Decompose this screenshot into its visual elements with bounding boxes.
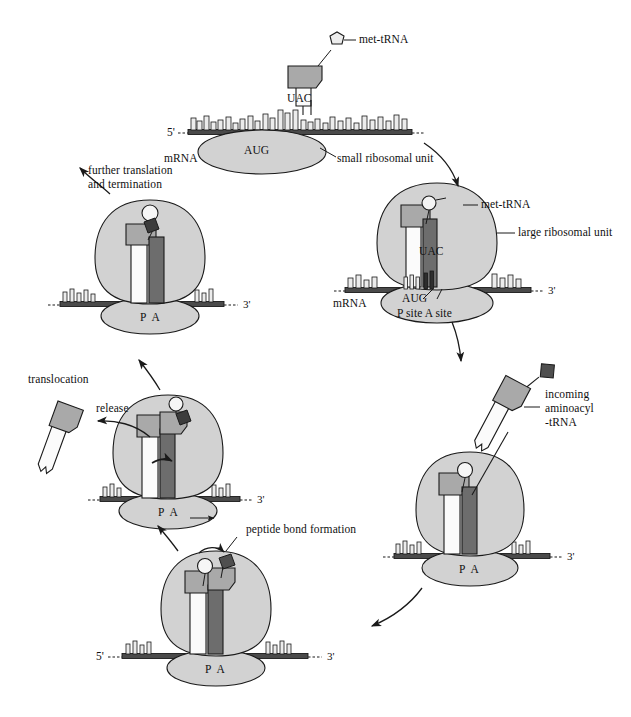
released-trna xyxy=(33,401,83,478)
mrna-bases-1 xyxy=(191,110,407,130)
label-translocation: translocation xyxy=(28,373,89,387)
diagram-canvas xyxy=(0,0,631,717)
label-five-prime-1: 5' xyxy=(167,126,175,140)
label-three-prime-6: 3' xyxy=(243,298,251,312)
label-p-a-sites-4: P A xyxy=(205,663,225,677)
label-met-trna-1: met-tRNA xyxy=(359,33,408,47)
label-large-ribosomal-unit: large ribosomal unit xyxy=(518,226,612,240)
mrna-strand-1 xyxy=(178,110,424,135)
label-mrna-2: mRNA xyxy=(333,297,367,311)
label-anticodon-uac-1: UAC xyxy=(287,92,312,106)
label-three-prime-5: 3' xyxy=(257,493,265,507)
label-three-prime-2: 3' xyxy=(548,284,556,298)
label-met-trna-2: met-tRNA xyxy=(481,198,530,212)
label-p-a-sites-6: P A xyxy=(140,311,160,325)
label-and-termination: and termination xyxy=(88,178,162,192)
label-p-a-sites-2: P site A site xyxy=(397,307,452,321)
label-small-ribosomal-unit: small ribosomal unit xyxy=(337,152,434,166)
translation-cycle-figure: met-tRNA UAC AUG 5' mRNA small ribosomal… xyxy=(0,0,631,717)
label-peptide-bond-formation: peptide bond formation xyxy=(246,523,356,537)
stage-aminoacyl-entry xyxy=(383,347,562,586)
label-three-prime-3: 3' xyxy=(567,550,575,564)
label-release: release xyxy=(96,402,129,416)
label-codon-aug-2: AUG xyxy=(402,292,427,306)
arrow-peptide-to-translocation xyxy=(158,526,178,551)
label-five-prime-4: 5' xyxy=(96,650,104,664)
stage-translocation-release xyxy=(33,395,252,529)
arrow-large-to-aminoacyl xyxy=(452,322,461,361)
label-three-prime-4: 3' xyxy=(327,650,335,664)
label-further-translation: further translation xyxy=(88,164,173,178)
arrow-aminoacyl-to-peptide xyxy=(372,588,422,626)
arrow-translocation-to-elongation xyxy=(139,360,160,390)
label-codon-aug-1: AUG xyxy=(244,144,269,158)
label-p-a-sites-3: P A xyxy=(459,563,479,577)
label-incoming-line3: -tRNA xyxy=(545,416,577,430)
label-incoming-line1: incoming xyxy=(545,388,589,402)
label-anticodon-uac-2: UAC xyxy=(419,245,444,259)
label-p-a-sites-5: P A xyxy=(158,506,178,520)
label-incoming-line2: aminoacyl xyxy=(545,402,594,416)
